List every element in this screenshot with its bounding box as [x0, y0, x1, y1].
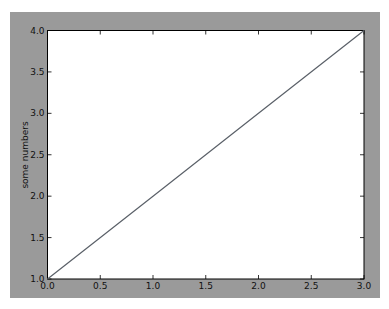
x-tick-label: 3.0 — [357, 281, 372, 291]
y-tick-label: 1.0 — [30, 274, 45, 284]
y-tick-label: 1.5 — [30, 233, 44, 243]
x-tick-label: 1.0 — [146, 281, 161, 291]
y-tick-label: 2.5 — [30, 150, 44, 160]
y-tick-label: 2.0 — [30, 191, 45, 201]
x-tick-label: 0.5 — [93, 281, 107, 291]
y-axis-label: some numbers — [20, 121, 30, 188]
line-chart: 0.00.51.01.52.02.53.0 1.01.52.02.53.03.5… — [0, 0, 389, 309]
y-tick-label: 3.5 — [30, 67, 44, 77]
y-tick-label: 3.0 — [30, 108, 45, 118]
y-tick-label: 4.0 — [30, 26, 45, 36]
x-tick-label: 2.0 — [251, 281, 266, 291]
x-tick-label: 1.5 — [199, 281, 213, 291]
x-tick-label: 2.5 — [304, 281, 318, 291]
